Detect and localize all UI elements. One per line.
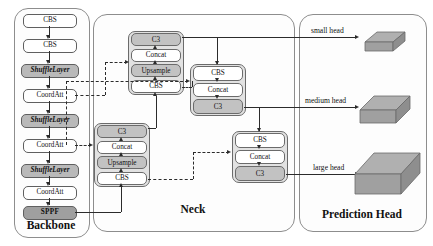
connector-c3-to-cbs [148, 128, 156, 129]
skip-bottom-v [193, 152, 194, 179]
connector-c3-to-large-head [286, 174, 357, 175]
arrow-right [125, 60, 129, 64]
arrow-right [89, 143, 93, 147]
backbone-block-coordatt-1: CoordAtt [23, 89, 77, 103]
label-backbone: Backbone [14, 219, 88, 231]
backbone-block-coordatt-3: CoordAtt [23, 186, 77, 200]
backbone-block-shufflelayer-2: ShuffleLayer [21, 114, 79, 128]
arrow-up [153, 92, 157, 96]
arrow-down [215, 95, 219, 99]
neck-group-downsample-large: CBS Concat C3 [232, 131, 288, 183]
neck-group-downsample-middle: CBS Concat C3 [190, 64, 246, 116]
arrow-up [153, 45, 157, 49]
backbone-block-cbs-1: CBS [23, 14, 77, 28]
skip-coordatt1-h2 [105, 62, 127, 63]
skip-coordatt1-h [75, 95, 105, 96]
skip-bottom-h2 [193, 152, 229, 153]
arrow-up [153, 76, 157, 80]
skip-coordatt1-v [105, 62, 106, 95]
architecture-diagram: CBS CBS ShuffleLayer CoordAtt ShuffleLay… [0, 0, 433, 246]
connector [217, 37, 218, 64]
neck-cell-c3: C3 [193, 99, 243, 113]
arrow-down [257, 162, 261, 166]
arrow-down [215, 78, 219, 82]
skip-long-v [66, 81, 67, 145]
head-cuboid-small [363, 26, 407, 60]
label-neck: Neck [93, 203, 293, 215]
arrow-up [119, 168, 123, 172]
arrow-right [355, 35, 359, 39]
arrow-up [119, 152, 123, 156]
head-label-medium: medium head [305, 96, 346, 105]
arrow-down [257, 128, 261, 132]
arrow-up [119, 183, 123, 187]
neck-cell-c3: C3 [235, 166, 285, 180]
head-cuboid-medium [358, 90, 414, 134]
skip-bottom-h [148, 179, 193, 180]
head-label-large: large head [313, 163, 344, 172]
backbone-block-coordatt-2: CoordAtt [23, 139, 77, 153]
connector-c3-to-medium-head [244, 107, 357, 108]
head-label-small: small head [311, 26, 344, 35]
arrow-up [119, 137, 123, 141]
backbone-block-cbs-2: CBS [23, 39, 77, 53]
skip-cbs-stub-v [192, 81, 193, 87]
backbone-block-sppf: SPPF [23, 206, 77, 220]
arrow-right [186, 79, 190, 83]
head-cuboid-large [352, 148, 424, 206]
connector-c3-to-small-head [182, 37, 357, 38]
skip-cbs-stub [182, 87, 192, 88]
skip-long-h [66, 81, 188, 82]
backbone-block-shufflelayer-1: ShuffleLayer [21, 64, 79, 78]
arrow-down [215, 61, 219, 65]
connector [156, 96, 157, 128]
arrow-up [153, 60, 157, 64]
label-prediction-head: Prediction Head [299, 208, 425, 220]
backbone-block-shufflelayer-3: ShuffleLayer [21, 164, 79, 178]
arrow-right [227, 150, 231, 154]
arrow-down [257, 145, 261, 149]
